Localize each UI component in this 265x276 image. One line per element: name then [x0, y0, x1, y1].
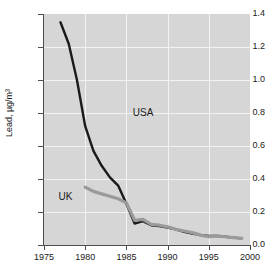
- y-tick-mark: [38, 80, 44, 81]
- y-tick-mark: [38, 179, 44, 180]
- x-tick-mark: [209, 245, 210, 250]
- y-tick-label: 1.4: [229, 9, 265, 18]
- x-tick-label: 1995: [189, 253, 229, 262]
- y-tick-label: 0.2: [229, 207, 265, 216]
- lead-concentration-chart: USA UK 0.00.20.40.60.81.01.21.4 19751980…: [0, 0, 265, 276]
- y-tick-label: 0.4: [229, 174, 265, 183]
- x-tick-label: 2000: [230, 253, 265, 262]
- x-tick-mark: [44, 245, 45, 250]
- series-line-usa: [60, 22, 241, 238]
- y-tick-mark: [38, 113, 44, 114]
- y-tick-mark: [38, 47, 44, 48]
- x-tick-label: 1980: [65, 253, 105, 262]
- x-tick-mark: [168, 245, 169, 250]
- x-tick-label: 1975: [24, 253, 64, 262]
- series-label-usa: USA: [133, 107, 154, 118]
- y-tick-label: 0.6: [229, 141, 265, 150]
- x-tick-mark: [250, 245, 251, 250]
- y-tick-mark: [38, 14, 44, 15]
- series-line-uk: [85, 187, 242, 238]
- series-curves: [44, 14, 250, 245]
- series-label-uk: UK: [59, 191, 73, 202]
- x-tick-mark: [85, 245, 86, 250]
- plot-area: USA UK: [44, 14, 250, 245]
- x-axis-line: [43, 245, 251, 246]
- y-tick-label: 0.8: [229, 108, 265, 117]
- y-tick-label: 1.0: [229, 75, 265, 84]
- y-tick-label: 0.0: [229, 240, 265, 249]
- x-tick-label: 1990: [148, 253, 188, 262]
- y-tick-label: 1.2: [229, 42, 265, 51]
- x-tick-label: 1985: [106, 253, 146, 262]
- y-axis-title: Lead, µg/m³: [4, 73, 14, 153]
- x-tick-mark: [126, 245, 127, 250]
- y-tick-mark: [38, 212, 44, 213]
- y-tick-mark: [38, 146, 44, 147]
